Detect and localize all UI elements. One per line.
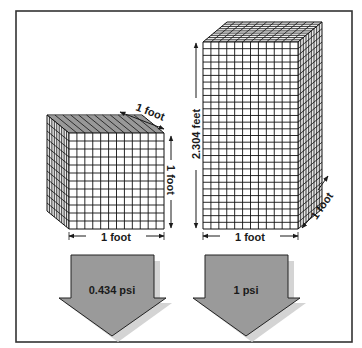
right-height-dimension: 2.304 feet	[190, 43, 202, 228]
left-width-label: 1 foot	[101, 231, 131, 243]
diagram-canvas: 1 foot 1 foot 1 foot 2.304 feet 1 foot 1…	[0, 0, 362, 348]
left-block	[47, 115, 164, 229]
right-pressure-arrow: 1 psi	[193, 255, 306, 342]
right-width-label: 1 foot	[235, 231, 265, 243]
right-width-dimension: 1 foot	[203, 231, 298, 243]
left-width-dimension: 1 foot	[69, 231, 164, 243]
left-pressure-arrow: 0.434 psi	[59, 255, 172, 342]
left-height-dimension: 1 foot	[165, 136, 177, 228]
left-height-label: 1 foot	[165, 165, 177, 195]
left-pressure-label: 0.434 psi	[89, 284, 135, 296]
right-pressure-label: 1 psi	[233, 284, 258, 296]
right-block	[203, 22, 322, 229]
right-height-label: 2.304 feet	[190, 109, 202, 159]
